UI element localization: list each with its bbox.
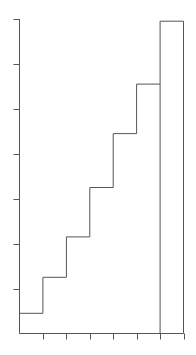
step-chart xyxy=(0,0,196,355)
step-series xyxy=(20,21,184,333)
axes xyxy=(14,19,185,340)
